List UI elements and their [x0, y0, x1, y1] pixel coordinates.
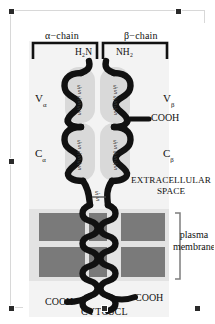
c-beta-subscript: β — [170, 156, 173, 163]
membrane-block-outer-left — [39, 213, 85, 241]
beta-n-terminus-label: NH₂ — [116, 48, 133, 58]
selection-handle-bottom-right[interactable] — [194, 305, 201, 312]
membrane-block-inner-right — [121, 247, 165, 277]
extracellular-space-label: EXTRACELLULAR SPACE — [131, 175, 211, 197]
membrane-block-outer-right — [121, 213, 165, 241]
ss-glyph: S-S — [94, 191, 101, 202]
membrane-block-inner-left — [39, 247, 85, 277]
selection-handle-top-left[interactable] — [8, 8, 15, 15]
ss-glyph: S-S — [76, 161, 83, 172]
disulfide-bond-c-alpha: S-S S-S S-S — [76, 140, 83, 172]
c-alpha-subscript: α — [42, 156, 46, 163]
disulfide-bond-interchain: S-S — [94, 191, 101, 202]
beta-cytosolic-cooh-label: COOH — [135, 293, 163, 303]
ss-glyph: S-S — [112, 140, 119, 151]
disulfide-bond-v-alpha: S-S S-S S-S — [76, 85, 83, 117]
selection-frame[interactable]: S-S S-S S-S S-S S-S S-S S-S S-S S-S S-S … — [10, 10, 205, 308]
selection-handle-top-right[interactable] — [175, 8, 182, 15]
beta-chain-label: β−chain — [124, 31, 158, 41]
ss-glyph: S-S — [76, 85, 83, 96]
ss-glyph: S-S — [76, 140, 83, 151]
selection-handle-middle-left[interactable] — [8, 158, 15, 165]
v-beta-letter: V — [163, 92, 171, 104]
v-beta-subscript: β — [171, 101, 174, 108]
plasma-membrane — [29, 209, 169, 281]
c-beta-domain-label: Cβ — [163, 148, 174, 159]
v-beta-domain-label: Vβ — [163, 93, 174, 104]
plasma-membrane-label: plasma membrane — [171, 229, 214, 253]
disulfide-bond-c-beta: S-S S-S S-S — [112, 140, 119, 172]
c-alpha-domain-label: Cα — [35, 148, 46, 159]
ss-glyph: S-S — [112, 85, 119, 96]
selection-handle-bottom-center[interactable] — [101, 305, 108, 312]
v-alpha-letter: V — [35, 92, 43, 104]
selection-handle-bottom-left[interactable] — [8, 305, 15, 312]
disulfide-bond-v-beta: S-S S-S S-S — [112, 85, 119, 117]
tcr-diagram: S-S S-S S-S S-S S-S S-S S-S S-S S-S S-S … — [23, 23, 214, 317]
alpha-cytosolic-cooh-label: COOH — [45, 297, 73, 307]
ss-glyph: S-S — [76, 106, 83, 117]
v-alpha-subscript: α — [43, 101, 47, 108]
ss-glyph: S-S — [112, 106, 119, 117]
beta-extracellular-cooh-label: COOH — [151, 113, 179, 123]
alpha-n-terminus-label: H₂N — [75, 48, 92, 58]
v-alpha-domain-label: Vα — [35, 93, 47, 104]
alpha-chain-label: α−chain — [45, 31, 79, 41]
ss-glyph: S-S — [112, 161, 119, 172]
